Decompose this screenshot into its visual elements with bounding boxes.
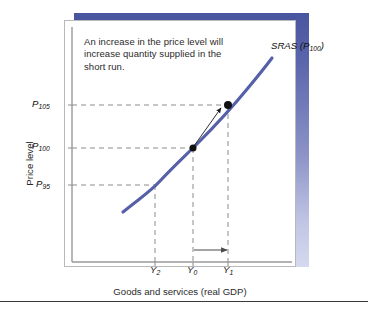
sras-label-subscript: 100 — [309, 45, 320, 52]
y-tick-p100-sub: 100 — [38, 145, 49, 152]
x-tick-label-y0: Y0 — [187, 264, 197, 276]
sras-curve-label: SRAS (P100) — [271, 40, 324, 52]
y-tick-label-p95: P95 — [36, 178, 50, 190]
sras-curve — [123, 58, 272, 212]
x-tick-label-y1: Y1 — [223, 264, 233, 276]
x-tick-y0-sub: 0 — [193, 269, 197, 276]
sras-figure: An increase in the price level will incr… — [0, 0, 368, 316]
y-axis-title: Price level — [24, 109, 35, 219]
point-Y1-P105 — [224, 101, 232, 109]
y-tick-label-p105: P105 — [32, 98, 50, 110]
x-tick-y1-sub: 1 — [229, 269, 233, 276]
caption-text: An increase in the price level will incr… — [84, 36, 234, 73]
x-tick-label-y2: Y2 — [150, 264, 160, 276]
x-axis-title: Goods and services (real GDP) — [64, 286, 296, 297]
movement-arrow — [194, 108, 221, 146]
sras-label-close: ) — [321, 40, 324, 51]
y-tick-label-p100: P100 — [32, 140, 50, 152]
sras-label-main: SRAS (P — [271, 40, 309, 51]
point-Y0-P100 — [190, 145, 197, 152]
y-tick-p95-sub: 95 — [42, 183, 50, 190]
bottom-divider — [0, 301, 368, 302]
y-tick-p105-sub: 105 — [38, 103, 49, 110]
x-tick-y2-sub: 2 — [156, 269, 160, 276]
